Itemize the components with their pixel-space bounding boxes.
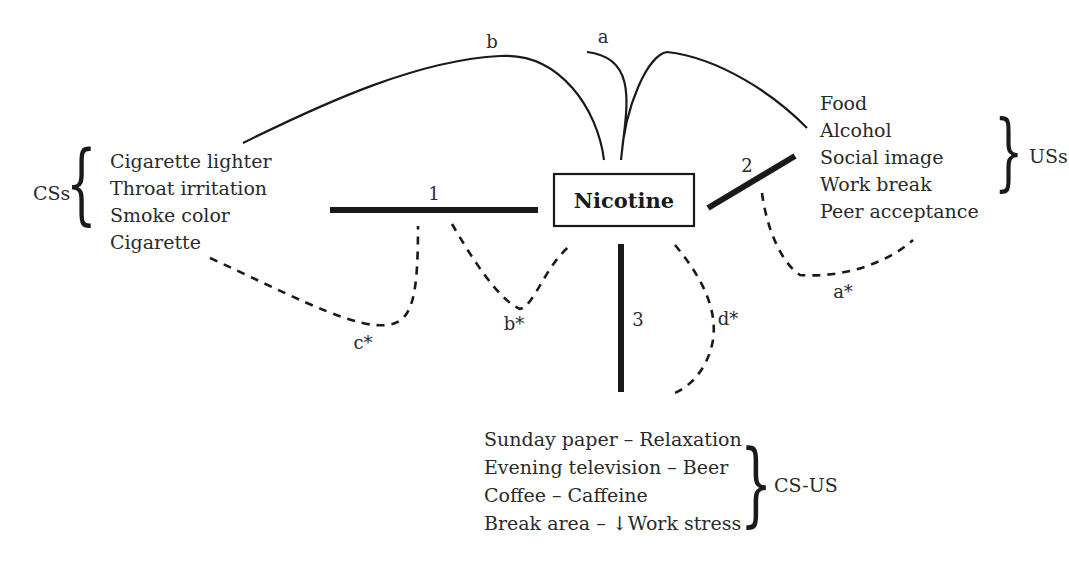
cs-us-item: Sunday paper – Relaxation	[484, 428, 742, 450]
uss-item: Social image	[820, 146, 943, 168]
uss-group-label: USs	[1029, 145, 1068, 167]
blocking-line-1-label: 1	[428, 183, 439, 204]
uss-item: Food	[820, 92, 867, 114]
arc-b-label: b	[486, 31, 498, 52]
uss-brace-icon: }	[994, 102, 1023, 200]
cs-us-brace-icon: }	[740, 429, 772, 537]
dashed-d-star-label: d*	[718, 308, 739, 329]
uss-item: Peer acceptance	[820, 200, 979, 222]
dashed-c-star-label: c*	[353, 332, 372, 353]
css-item: Cigarette	[110, 231, 201, 253]
dashed-a-star-label: a*	[833, 281, 853, 302]
css-item: Cigarette lighter	[110, 150, 272, 172]
nicotine-label: Nicotine	[574, 188, 674, 213]
cs-us-item: Break area – ↓Work stress	[484, 512, 741, 534]
conditioning-diagram: b a Nicotine 1 2 3 c* b* d* a* CSs { Cig…	[0, 0, 1069, 563]
dashed-d-star	[670, 245, 714, 395]
arc-b	[243, 56, 604, 160]
css-item: Throat irritation	[110, 177, 267, 199]
dashed-c-star	[210, 226, 418, 325]
css-item: Smoke color	[110, 204, 231, 226]
dashed-b-star	[452, 224, 572, 309]
css-group-label: CSs	[33, 182, 70, 204]
css-brace-icon: {	[66, 132, 97, 235]
uss-item: Alcohol	[819, 119, 892, 141]
dashed-b-star-label: b*	[504, 313, 525, 334]
arc-a-label: a	[598, 26, 609, 47]
cs-us-item: Evening television – Beer	[484, 456, 729, 478]
cs-us-group-label: CS-US	[774, 474, 838, 496]
cs-us-item: Coffee – Caffeine	[484, 484, 648, 506]
uss-item: Work break	[820, 173, 932, 195]
blocking-line-2-label: 2	[741, 155, 752, 176]
blocking-line-3-label: 3	[632, 309, 643, 330]
arc-a	[587, 52, 807, 160]
